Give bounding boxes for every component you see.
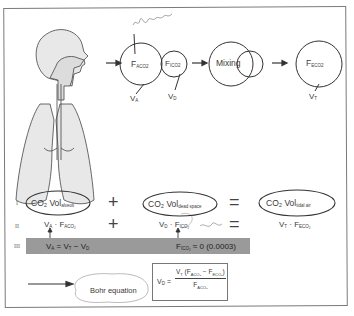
alveolar-fraction-label: FACO2: [131, 59, 148, 69]
alveolar-co2-term: VA · FACO₂: [44, 220, 76, 229]
row-numeral-2: II: [15, 223, 19, 229]
mixing-label: Mixing: [216, 58, 241, 68]
bohr-equation-label: Bohr equation: [90, 286, 137, 295]
respiratory-anatomy-icon: [16, 30, 94, 204]
dead-space-fraction-label: FICO2: [165, 59, 180, 68]
equals-operator-2: =: [229, 215, 240, 233]
bohr-lhs: VD =: [157, 278, 171, 286]
tidal-volume-label: VT: [309, 92, 317, 101]
handwritten-note-top: [133, 14, 172, 25]
inspired-co2-approx: FICO₂ ≈ 0 (0.0003): [176, 242, 236, 251]
plus-operator-2: +: [108, 215, 119, 233]
row-numeral-3: III: [14, 243, 20, 249]
co2-vol-alveoli: CO₂ Volalveoli: [31, 198, 74, 208]
co2-vol-dead-space: CO₂ Voldead space: [148, 199, 202, 209]
co2-vol-tidal-air: CO₂ Voltidal air: [266, 198, 311, 208]
volume-relation: VA = VT − VD: [46, 242, 89, 251]
alveolar-volume-label: VA: [130, 94, 138, 103]
expired-fraction-label: FECO2: [306, 58, 323, 68]
bohr-fraction: VT (FACO₂ − FECO₂) FACO₂: [175, 268, 226, 291]
equals-operator-1: =: [229, 193, 240, 211]
plus-operator-1: +: [108, 193, 119, 211]
tidal-co2-term: VT · FECO₂: [279, 220, 311, 229]
row-numeral-1: I: [16, 200, 18, 206]
bohr-numerator: VT (FACO₂ − FECO₂): [175, 268, 226, 279]
bohr-denominator: FACO₂: [175, 279, 226, 290]
bohr-equation-box: VD = VT (FACO₂ − FECO₂) FACO₂: [152, 263, 228, 301]
dead-space-co2-term: VD · FICO₂: [159, 220, 189, 229]
dead-space-volume-label: VD: [168, 92, 177, 101]
